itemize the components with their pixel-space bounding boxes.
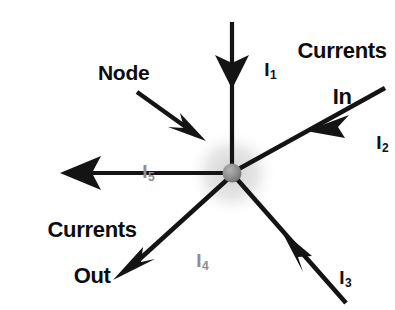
- currents-out-line-1: Currents: [47, 217, 136, 242]
- node-dot: [223, 164, 242, 183]
- current-subscript-i3: 3: [345, 276, 352, 290]
- current-subscript-i4: 4: [202, 259, 209, 273]
- current-symbol-i1: I: [264, 59, 269, 80]
- arrowhead-i3: [281, 230, 312, 272]
- currents-in-line-1: Currents: [297, 38, 386, 63]
- current-label-i4: I4: [175, 228, 208, 294]
- node-text-label: Node: [98, 62, 149, 84]
- kirchhoff-node-diagram: Currents In Currents Out Node I1 I2 I3 I…: [0, 0, 395, 310]
- currents-out-label: Currents Out: [18, 196, 143, 310]
- current-label-i1: I1: [243, 37, 276, 103]
- current-subscript-i1: 1: [270, 68, 277, 82]
- current-symbol-i2: I: [376, 132, 381, 153]
- currents-out-line-2: Out: [74, 263, 111, 288]
- currents-in-line-2: In: [333, 84, 352, 109]
- current-symbol-i3: I: [339, 267, 344, 288]
- current-label-i3: I3: [318, 245, 351, 310]
- current-label-i5: I5: [121, 139, 154, 205]
- current-label-i2: I2: [355, 110, 388, 176]
- current-subscript-i2: 2: [382, 141, 389, 155]
- node-pointer-arrow: [137, 92, 206, 141]
- current-symbol-i5: I: [142, 161, 147, 182]
- node-pointer-line: [137, 92, 190, 130]
- current-subscript-i5: 5: [148, 170, 155, 184]
- current-symbol-i4: I: [196, 250, 201, 271]
